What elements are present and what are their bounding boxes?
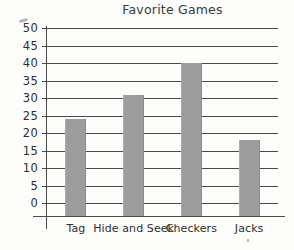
- scan-artifact-speck: [247, 239, 249, 242]
- bar: [123, 95, 144, 217]
- y-axis-tick: [42, 151, 47, 152]
- y-axis-tick: [42, 28, 47, 29]
- y-axis-label: 20: [23, 126, 38, 140]
- gridline: [47, 28, 278, 29]
- bar: [181, 63, 202, 216]
- plot-area: 05101520253035404550: [47, 28, 278, 203]
- x-axis-label: Tag: [66, 222, 85, 235]
- y-axis-label: 5: [30, 179, 38, 193]
- y-axis-tick: [42, 46, 47, 47]
- y-axis-tick: [42, 133, 47, 134]
- gridline: [47, 81, 278, 82]
- x-axis-line: [33, 216, 285, 217]
- y-axis-tick: [42, 203, 47, 204]
- y-axis-tick: [42, 168, 47, 169]
- gridline: [47, 98, 278, 99]
- bar: [65, 119, 86, 216]
- y-axis-label: 50: [23, 21, 38, 35]
- bar-chart-figure: Favorite Games 05101520253035404550 TagH…: [0, 0, 294, 250]
- y-axis-tick: [42, 63, 47, 64]
- gridline: [47, 63, 278, 64]
- chart-title: Favorite Games: [60, 2, 285, 17]
- x-axis-label: Checkers: [166, 222, 217, 235]
- x-axis-label: Hide and Seek: [93, 222, 174, 235]
- gridline: [47, 116, 278, 117]
- y-axis-label: 30: [23, 91, 38, 105]
- y-axis-label: 0: [30, 196, 38, 210]
- x-axis-label: Jacks: [235, 222, 264, 235]
- gridline: [47, 46, 278, 47]
- y-axis-label: 35: [23, 74, 38, 88]
- y-axis-label: 15: [23, 144, 38, 158]
- y-axis-tick: [42, 116, 47, 117]
- y-axis-tick: [42, 81, 47, 82]
- y-axis-tick: [42, 98, 47, 99]
- y-axis-tick: [42, 186, 47, 187]
- y-axis-label: 25: [23, 109, 38, 123]
- y-axis-label: 40: [23, 56, 38, 70]
- y-axis-label: 10: [23, 161, 38, 175]
- bar: [239, 140, 260, 216]
- y-axis-label: 45: [23, 39, 38, 53]
